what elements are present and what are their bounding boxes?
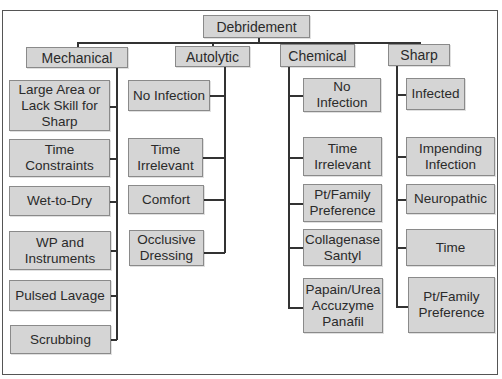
autolytic-branch-connector: [204, 199, 225, 201]
chemical-item: Pt/Family Preference: [303, 184, 382, 222]
chemical-item: No Infection: [303, 78, 381, 112]
chemical-item: Papain/Urea Accuzyme Panafil: [303, 278, 383, 333]
sharp-item: Impending Infection: [406, 137, 495, 176]
mechanical-item: Wet-to-Dry: [9, 186, 110, 216]
chemical-branch-connector: [288, 247, 303, 249]
autolytic-branch-connector: [203, 157, 225, 159]
chemical-spine-connector: [288, 67, 290, 308]
chemical-branch-connector: [288, 157, 303, 159]
sharp-item: Infected: [406, 78, 465, 110]
autolytic-branch-connector: [210, 95, 225, 97]
chemical-branch-connector: [288, 95, 303, 97]
mechanical-item: WP and Instruments: [9, 231, 111, 270]
mechanical-branch-connector: [110, 201, 117, 203]
sharp-branch-connector: [396, 199, 406, 201]
autolytic-branch-connector: [204, 252, 225, 254]
autolytic-item: Occlusive Dressing: [129, 230, 204, 266]
sharp-branch-connector: [396, 306, 408, 308]
category-bus-connector: [77, 42, 420, 44]
mechanical-item: Time Constraints: [9, 139, 110, 177]
sharp-branch-connector: [396, 94, 406, 96]
mechanical-branch-connector: [110, 106, 117, 108]
chemical-branch-connector: [288, 203, 303, 205]
chemical-item: Time Irrelevant: [303, 137, 382, 176]
mechanical-item: Large Area or Lack Skill for Sharp: [9, 80, 110, 131]
mechanical-branch-connector: [111, 250, 117, 252]
mechanical-branch-connector: [111, 295, 117, 297]
mechanical-spine-connector: [116, 68, 118, 340]
autolytic-item: Comfort: [128, 185, 204, 214]
mechanical-item: Pulsed Lavage: [9, 280, 111, 311]
mechanical-branch-connector: [111, 339, 117, 341]
sharp-spine-connector: [396, 66, 398, 307]
chemical-item: Collagenase Santyl: [303, 229, 382, 266]
chemical-branch-connector: [288, 307, 303, 309]
category-mechanical: Mechanical: [26, 47, 128, 68]
sharp-branch-connector: [396, 247, 406, 249]
autolytic-item: No Infection: [128, 80, 210, 111]
sharp-item: Pt/Family Preference: [408, 277, 495, 333]
autolytic-item: Time Irrelevant: [128, 138, 203, 177]
mechanical-item: Scrubbing: [10, 325, 111, 354]
mechanical-branch-connector: [110, 158, 117, 160]
root-node-debridement: Debridement: [203, 15, 310, 38]
category-sharp: Sharp: [388, 44, 450, 66]
sharp-branch-connector: [396, 156, 406, 158]
category-autolytic: Autolytic: [175, 46, 250, 67]
sharp-item: Time: [406, 229, 495, 266]
category-chemical: Chemical: [280, 44, 355, 67]
sharp-item: Neuropathic: [406, 184, 495, 214]
